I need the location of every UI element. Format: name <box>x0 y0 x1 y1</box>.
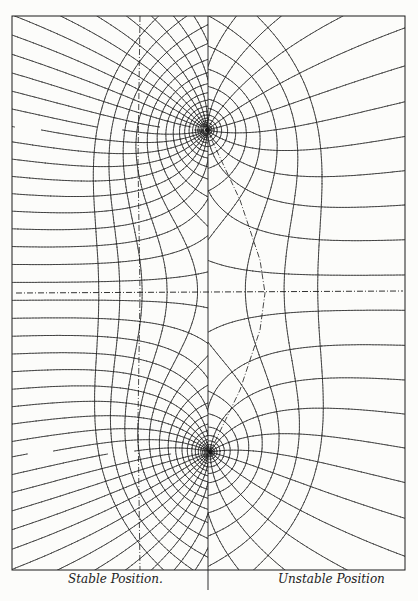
field-diagram <box>0 0 418 601</box>
caption-unstable-position: Unstable Position <box>278 572 385 586</box>
separatrix-left <box>138 16 140 570</box>
equipotentials-right <box>208 16 323 571</box>
caption-stable-position: Stable Position. <box>68 572 163 586</box>
singular-point-upper <box>205 128 209 132</box>
field-lines-right <box>208 16 406 571</box>
singular-point-lower <box>208 450 212 454</box>
midline-dash-dot <box>16 291 403 293</box>
